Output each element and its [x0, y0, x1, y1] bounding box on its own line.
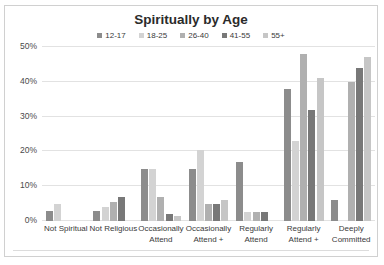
- bar[interactable]: [189, 169, 196, 221]
- legend-label: 18-25: [147, 31, 167, 40]
- bar[interactable]: [141, 169, 148, 221]
- bar[interactable]: [221, 200, 228, 221]
- x-axis-labels: Not SpiritualNot ReligiousOccasionallyAt…: [42, 224, 375, 264]
- x-axis-label-line: Deeply: [321, 224, 381, 235]
- bar[interactable]: [166, 214, 173, 221]
- bar[interactable]: [174, 216, 181, 221]
- chart-title: Spiritually by Age: [5, 12, 377, 27]
- bar-group: [185, 47, 233, 221]
- y-axis-tick-label: 50%: [20, 41, 37, 51]
- legend-label: 12-17: [105, 31, 125, 40]
- bar[interactable]: [197, 150, 204, 221]
- bottom-divider: [13, 250, 369, 251]
- legend-swatch-icon: [263, 33, 268, 38]
- bar[interactable]: [213, 204, 220, 221]
- bar-group: [327, 47, 375, 221]
- bar[interactable]: [102, 207, 109, 221]
- bar[interactable]: [348, 82, 355, 221]
- bar[interactable]: [331, 200, 338, 221]
- legend-swatch-icon: [180, 33, 185, 38]
- bar[interactable]: [244, 212, 251, 221]
- bar[interactable]: [356, 68, 363, 221]
- x-axis-label: DeeplyCommitted: [321, 224, 381, 245]
- bar-group: [137, 47, 185, 221]
- legend-swatch-icon: [139, 33, 144, 38]
- bar[interactable]: [118, 197, 125, 221]
- chart-container: Spiritually by Age 12-1718-2526-4041-555…: [4, 5, 378, 257]
- bar[interactable]: [284, 89, 291, 221]
- bar-group: [232, 47, 280, 221]
- legend-item-26-40[interactable]: 26-40: [180, 31, 208, 40]
- bar-group: [90, 47, 138, 221]
- legend-swatch-icon: [222, 33, 227, 38]
- legend-label: 41-55: [230, 31, 250, 40]
- bar[interactable]: [205, 204, 212, 221]
- y-axis-tick-label: 30%: [20, 111, 37, 121]
- bar[interactable]: [261, 212, 268, 221]
- bar-group: [280, 47, 328, 221]
- bar[interactable]: [46, 211, 53, 221]
- bar[interactable]: [253, 212, 260, 221]
- bar[interactable]: [110, 202, 117, 221]
- bar[interactable]: [364, 57, 371, 221]
- bar[interactable]: [149, 169, 156, 221]
- bar[interactable]: [54, 204, 61, 221]
- bar[interactable]: [292, 141, 299, 221]
- bar[interactable]: [236, 162, 243, 221]
- legend-item-55+[interactable]: 55+: [263, 31, 285, 40]
- plot-area: 0%10%20%30%40%50%: [42, 47, 375, 221]
- x-axis-label-line: Committed: [321, 235, 381, 246]
- bar[interactable]: [157, 197, 164, 221]
- y-axis-tick-label: 10%: [20, 180, 37, 190]
- legend-label: 26-40: [188, 31, 208, 40]
- legend-item-41-55[interactable]: 41-55: [222, 31, 250, 40]
- bar[interactable]: [308, 110, 315, 221]
- legend-swatch-icon: [97, 33, 102, 38]
- chart-legend: 12-1718-2526-4041-5555+: [5, 31, 377, 40]
- bar[interactable]: [300, 54, 307, 221]
- bar[interactable]: [93, 211, 100, 221]
- legend-item-18-25[interactable]: 18-25: [139, 31, 167, 40]
- bar[interactable]: [317, 78, 324, 221]
- bar-group: [42, 47, 90, 221]
- legend-label: 55+: [271, 31, 285, 40]
- legend-item-12-17[interactable]: 12-17: [97, 31, 125, 40]
- y-axis-tick-label: 20%: [20, 145, 37, 155]
- y-axis-tick-label: 40%: [20, 76, 37, 86]
